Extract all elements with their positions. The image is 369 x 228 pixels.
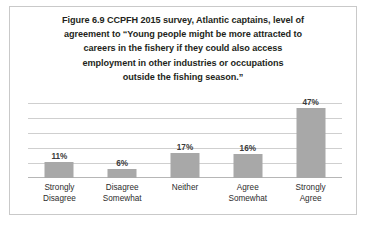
figure-title: Figure 6.9 CCPFH 2015 survey, Atlantic c… [20,13,346,84]
bar-group: 16% [216,103,279,178]
bar-group: 11% [28,103,91,178]
bar [233,154,262,178]
bar [108,169,137,178]
bar-group: 47% [279,103,342,178]
bar [170,153,199,179]
x-axis-label-strongly-disagree: StronglyDisagree [28,183,91,204]
bar-value-label: 17% [177,143,193,152]
figure-title-line-4: employment in other industries or occupa… [20,56,346,70]
bar-value-label: 47% [302,98,318,107]
bar-group: 6% [91,103,154,178]
bar [296,108,325,179]
figure-container: Figure 6.9 CCPFH 2015 survey, Atlantic c… [9,6,357,215]
x-axis-category-labels: StronglyDisagreeDisagreeSomewhatNeitherA… [28,183,342,211]
x-axis-label-neither: Neither [154,183,217,194]
bar-group: 17% [154,103,217,178]
x-axis-label-strongly-agree: StronglyAgree [279,183,342,204]
figure-title-line-2: agreement to “Young people might be more… [20,27,346,41]
bar-value-label: 11% [51,152,67,161]
figure-title-line-3: careers in the fishery if they could als… [20,41,346,55]
bar [45,162,74,179]
bar-value-label: 16% [240,144,256,153]
bar-series: 11%6%17%16%47% [28,103,342,178]
x-axis-label-agree-somewhat: AgreeSomewhat [216,183,279,204]
x-axis-label-disagree-somewhat: DisagreeSomewhat [91,183,154,204]
figure-title-line-1: Figure 6.9 CCPFH 2015 survey, Atlantic c… [20,13,346,27]
figure-title-line-5: outside the fishing season.” [20,70,346,84]
bar-value-label: 6% [116,159,128,168]
